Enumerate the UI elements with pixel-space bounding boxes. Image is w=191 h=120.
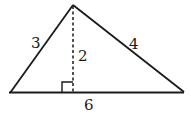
right-angle-marker (62, 82, 73, 92)
left-side-label: 3 (31, 36, 41, 51)
left-side (10, 5, 73, 93)
base-label: 6 (84, 98, 94, 113)
triangle-diagram: 3 4 2 6 (0, 0, 191, 120)
altitude-label: 2 (78, 49, 88, 64)
right-side-label: 4 (129, 37, 139, 52)
triangle-figure (0, 0, 191, 120)
